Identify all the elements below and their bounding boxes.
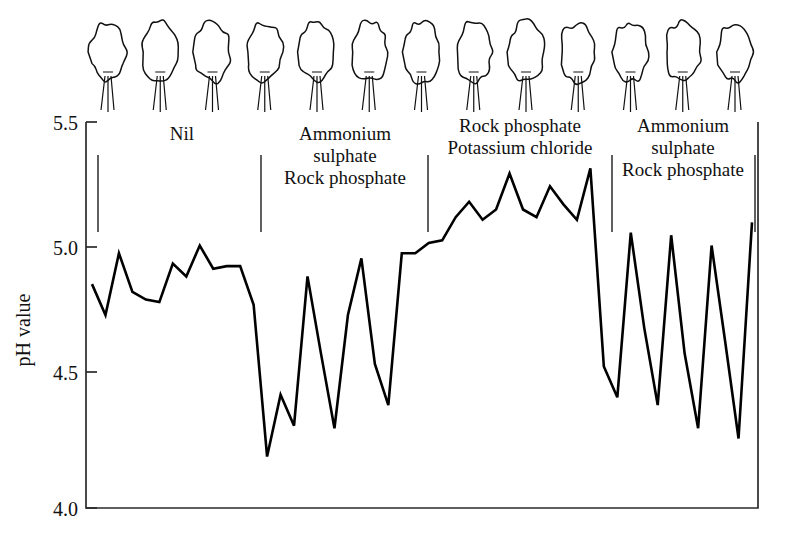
tree-icon <box>142 20 178 112</box>
y-tick-label-4.5: 4.5 <box>53 362 78 384</box>
y-tick-label-5.0: 5.0 <box>53 237 78 259</box>
tree-trunk-icon <box>571 72 584 112</box>
tree-crown-icon <box>561 23 594 85</box>
group-label-rock-phosphate-2: Rock phosphate <box>459 115 581 136</box>
tree-icon <box>193 20 231 112</box>
tree-trunk-icon <box>206 72 219 112</box>
tree-crown-icon <box>352 20 388 79</box>
group-label-ammonium-2: Ammonium <box>637 115 729 136</box>
tree-icon <box>667 20 701 112</box>
tree-crown-icon <box>717 25 754 83</box>
y-tick-label-4.0: 4.0 <box>53 498 78 520</box>
tree-icon <box>561 23 594 112</box>
ph-value-data-line <box>92 168 752 456</box>
y-axis-tick-labels: 5.5 5.0 4.5 4.0 <box>53 112 78 520</box>
tree-trunk-icon <box>415 72 428 112</box>
tree-crown-icon <box>457 22 492 84</box>
tree-icon <box>507 19 545 112</box>
tree-trunk-icon <box>153 72 166 112</box>
tree-trunk-icon <box>519 72 532 112</box>
tree-illustration-row <box>88 19 753 112</box>
tree-icon <box>88 23 127 112</box>
tree-icon <box>717 25 754 112</box>
group-label-rock-phosphate-1: Rock phosphate <box>284 167 406 188</box>
y-tick-label-5.5: 5.5 <box>53 112 78 134</box>
group-label-sulphate-2: sulphate <box>651 137 714 158</box>
tree-crown-icon <box>88 23 127 82</box>
group-label-ammonium-1: Ammonium <box>299 123 391 144</box>
tree-crown-icon <box>402 20 439 84</box>
group-label-rock-phosphate-3: Rock phosphate <box>622 159 744 180</box>
tree-crown-icon <box>298 22 334 83</box>
tree-icon <box>612 23 649 112</box>
tree-crown-icon <box>612 23 649 82</box>
tree-icon <box>457 22 492 112</box>
tree-trunk-icon <box>467 72 480 112</box>
tree-icon <box>352 20 388 112</box>
ph-value-chart-figure: 5.5 5.0 4.5 4.0 pH value Nil Ammonium su… <box>0 0 791 540</box>
tree-crown-icon <box>247 23 284 83</box>
tree-icon <box>298 22 334 112</box>
tree-crown-icon <box>193 20 231 84</box>
tree-icon <box>247 23 284 112</box>
group-label-nil: Nil <box>170 123 194 144</box>
chart-canvas: 5.5 5.0 4.5 4.0 pH value Nil Ammonium su… <box>0 0 791 540</box>
treatment-group-labels: Nil Ammonium sulphate Rock phosphate Roc… <box>170 115 744 188</box>
group-label-potassium-chloride: Potassium chloride <box>447 137 592 158</box>
y-axis-title: pH value <box>12 294 35 367</box>
tree-icon <box>402 20 439 112</box>
tree-trunk-icon <box>624 72 637 112</box>
group-label-sulphate-1: sulphate <box>313 145 376 166</box>
